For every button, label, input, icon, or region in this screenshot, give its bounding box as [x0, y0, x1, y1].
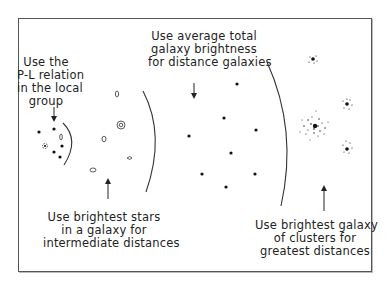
local-group-galaxies	[37, 127, 63, 158]
boundary-arc-intermediate	[143, 91, 155, 192]
distance-ladder-diagram: Use the P-L relation in the local group …	[0, 0, 387, 285]
boundary-arc-distant	[267, 62, 287, 206]
cluster-1	[308, 55, 317, 63]
diagram-graphics	[0, 0, 387, 285]
cluster-2	[342, 98, 352, 109]
intermediate-galaxies	[90, 91, 132, 172]
cluster-3-rich	[300, 111, 329, 141]
boundary-arc-local	[63, 123, 72, 165]
cluster-4	[342, 140, 352, 153]
distant-galaxies	[187, 82, 257, 188]
galaxy-clusters	[300, 55, 353, 153]
